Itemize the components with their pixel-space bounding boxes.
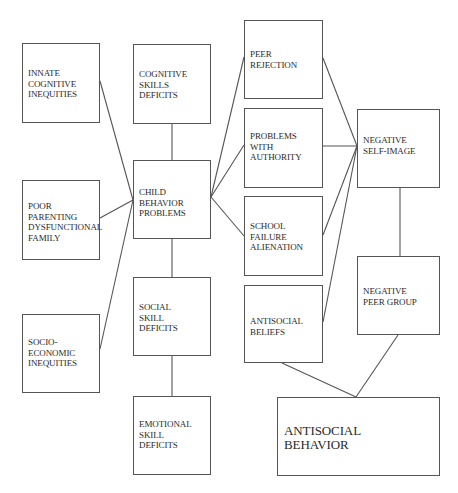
node-socio: SOCIO- ECONOMIC INEQUITIES: [22, 314, 100, 393]
edge-school-to-self-image: [323, 146, 357, 235]
node-self-image: NEGATIVE SELF-IMAGE: [357, 109, 440, 188]
node-label: NEGATIVE PEER GROUP: [363, 286, 417, 307]
node-cognitive: COGNITIVE SKILLS DEFICITS: [133, 44, 211, 124]
node-label: PEER REJECTION: [250, 49, 297, 70]
node-label: NEGATIVE SELF-IMAGE: [363, 135, 416, 156]
node-school: SCHOOL FAILURE ALIENATION: [244, 196, 323, 276]
edge-beliefs-to-behavior: [282, 363, 356, 397]
node-label: EMOTIONAL SKILL DEFICITS: [139, 419, 192, 451]
edge-child-to-peer-rejection: [211, 57, 244, 197]
node-label: PROBLEMS WITH AUTHORITY: [250, 131, 302, 163]
node-label: ANTISOCIAL BEHAVIOR: [284, 424, 361, 452]
node-label: COGNITIVE SKILLS DEFICITS: [139, 69, 187, 101]
node-authority: PROBLEMS WITH AUTHORITY: [244, 108, 323, 188]
node-beliefs: ANTISOCIAL BELIEFS: [244, 285, 323, 363]
node-social: SOCIAL SKILL DEFICITS: [133, 277, 211, 356]
node-label: SCHOOL FAILURE ALIENATION: [250, 221, 303, 253]
edge-socio-to-child: [100, 200, 133, 349]
edge-peer-group-to-behavior: [356, 335, 398, 397]
node-label: INNATE COGNITIVE INEQUITIES: [28, 68, 77, 100]
node-label: SOCIAL SKILL DEFICITS: [139, 302, 178, 334]
node-label: ANTISOCIAL BELIEFS: [250, 316, 303, 337]
node-innate: INNATE COGNITIVE INEQUITIES: [22, 43, 100, 123]
flow-diagram: INNATE COGNITIVE INEQUITIESCOGNITIVE SKI…: [0, 0, 458, 493]
edge-beliefs-to-self-image: [323, 146, 357, 322]
node-label: SOCIO- ECONOMIC INEQUITIES: [28, 337, 77, 369]
node-label: POOR PARENTING DYSFUNCTIONAL FAMILY: [28, 201, 102, 243]
node-peer-rejection: PEER REJECTION: [244, 20, 323, 99]
edge-child-to-authority: [211, 145, 244, 197]
edge-innate-to-child: [100, 81, 133, 200]
edge-child-to-school: [211, 197, 244, 236]
edge-parenting-to-child: [100, 200, 133, 218]
node-peer-group: NEGATIVE PEER GROUP: [357, 256, 440, 335]
node-parenting: POOR PARENTING DYSFUNCTIONAL FAMILY: [22, 180, 100, 260]
node-emotional: EMOTIONAL SKILL DEFICITS: [133, 396, 211, 475]
node-label: CHILD BEHAVIOR PROBLEMS: [139, 187, 186, 219]
node-child: CHILD BEHAVIOR PROBLEMS: [133, 160, 211, 239]
edge-peer-rejection-to-self-image: [323, 58, 357, 146]
node-behavior: ANTISOCIAL BEHAVIOR: [277, 397, 440, 476]
